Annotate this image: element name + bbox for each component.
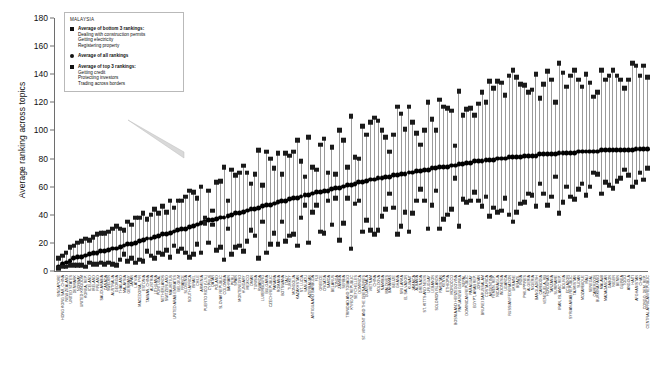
legend-circle-icon <box>70 54 74 58</box>
legend-country-label: MALAYSIA <box>70 17 178 22</box>
legend-item: Average of all rankings <box>70 53 178 59</box>
legend-item-label: Average of bottom 3 rankings:Dealing wit… <box>78 26 145 48</box>
legend-rows: Average of bottom 3 rankings:Dealing wit… <box>70 26 178 86</box>
chart-container: Average ranking across topics SINGAPOREH… <box>0 0 657 368</box>
legend-box: MALAYSIA Average of bottom 3 rankings:De… <box>64 12 184 92</box>
legend-item-label: Average of top 3 rankings:Getting credit… <box>78 64 136 86</box>
legend-square-icon <box>70 27 74 31</box>
legend-item: Average of top 3 rankings:Getting credit… <box>70 64 178 86</box>
legend-item-label: Average of all rankings <box>78 53 128 59</box>
legend-square-icon <box>70 65 74 69</box>
legend-item: Average of bottom 3 rankings:Dealing wit… <box>70 26 178 48</box>
